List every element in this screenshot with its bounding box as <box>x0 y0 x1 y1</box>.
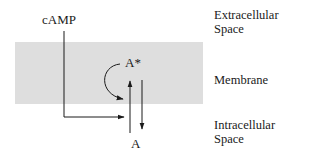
a-label: A <box>131 137 140 151</box>
extracellular-line2: Space <box>214 23 279 37</box>
intracellular-line1: Intracellular <box>214 119 275 133</box>
a-star-label: A* <box>125 56 141 70</box>
membrane-label: Membrane <box>214 74 268 88</box>
extracellular-label: Extracellular Space <box>214 9 279 36</box>
extracellular-line1: Extracellular <box>214 9 279 23</box>
curved-arrow <box>105 64 123 99</box>
camp-label: cAMP <box>42 13 76 27</box>
camp-elbow-arrow <box>64 31 124 117</box>
intracellular-label: Intracellular Space <box>214 119 275 146</box>
intracellular-line2: Space <box>214 133 275 147</box>
